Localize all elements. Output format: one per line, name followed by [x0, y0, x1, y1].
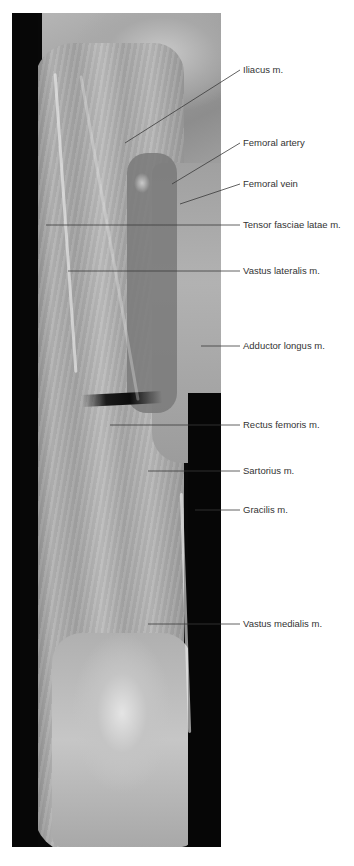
label-tensor-fasciae-latae: Tensor fasciae latae m. [243, 219, 341, 231]
label-gracilis: Gracilis m. [243, 504, 288, 516]
right-dark-background [188, 393, 221, 847]
left-dark-background [12, 13, 38, 847]
anatomy-figure: Iliacus m. Femoral artery Femoral vein T… [0, 0, 354, 866]
label-adductor-longus: Adductor longus m. [243, 340, 325, 352]
label-vastus-medialis: Vastus medialis m. [243, 618, 322, 630]
knee-region [52, 633, 192, 847]
thigh-dissection-photo [12, 13, 221, 847]
label-sartorius: Sartorius m. [243, 465, 294, 477]
label-vastus-lateralis: Vastus lateralis m. [243, 265, 320, 277]
label-femoral-vein: Femoral vein [243, 178, 298, 190]
label-femoral-artery: Femoral artery [243, 137, 305, 149]
label-iliacus: Iliacus m. [243, 64, 283, 76]
label-rectus-femoris: Rectus femoris m. [243, 419, 320, 431]
